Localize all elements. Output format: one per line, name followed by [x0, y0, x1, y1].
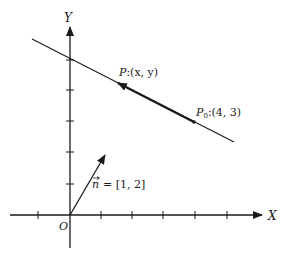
normal-vector-arrow [70, 155, 105, 215]
point-p0 [192, 120, 196, 124]
normal-vector-label: n= [1, 2] [92, 178, 145, 191]
vector-p0-to-p [118, 83, 194, 122]
x-axis [10, 211, 262, 219]
x-axis-label: X [267, 209, 277, 223]
y-axis-label: Y [64, 11, 73, 25]
origin-label: O [59, 220, 68, 233]
point-p-label: P:(x, y) [118, 66, 158, 79]
coordinate-diagram: X Y O P:(x, y) P0:(4, 3) n= [1, 2] [0, 0, 287, 261]
point-p0-label: P0:(4, 3) [195, 106, 241, 120]
